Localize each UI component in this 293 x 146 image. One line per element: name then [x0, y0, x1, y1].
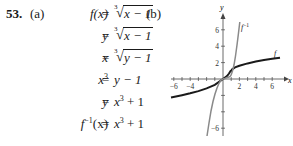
svg-text:6: 6 [215, 26, 219, 35]
curve-label-f-inverse: f−1 [241, 22, 249, 32]
x-tick-labels: −6 −4 2 4 6 [170, 82, 275, 91]
svg-text:−4: −4 [186, 82, 194, 91]
svg-text:4: 4 [254, 82, 258, 91]
svg-text:4: 4 [215, 42, 219, 51]
svg-text:2: 2 [238, 82, 242, 91]
y-axis-arrow-icon [221, 13, 226, 19]
curve-label-f: f [274, 49, 278, 58]
function-graph: x y −6 −4 2 4 6 6 4 2 −6 [0, 0, 293, 146]
y-axis-label: y [219, 3, 224, 12]
svg-text:−6: −6 [211, 124, 219, 133]
x-axis-label: x [287, 76, 292, 85]
svg-text:2: 2 [215, 59, 219, 68]
svg-text:6: 6 [270, 82, 274, 91]
svg-text:−6: −6 [170, 82, 178, 91]
